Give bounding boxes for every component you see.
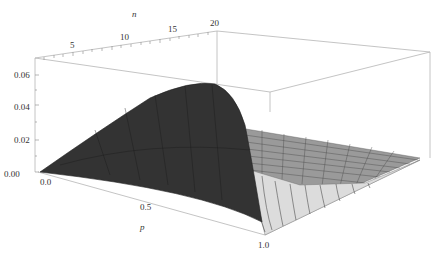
n-axis-label: n [132,9,137,19]
z-axis-ticks [35,75,39,172]
p-tick-1.0: 1.0 [258,240,270,250]
surface-plot: 5 10 15 20 n 0.06 0.04 0.02 0.00 [0,0,443,257]
z-axis-labels: 0.06 0.04 0.02 0.00 [4,70,30,179]
z-tick-0.02: 0.02 [14,135,30,145]
p-tick-0.0: 0.0 [40,177,52,187]
n-tick-10: 10 [120,32,130,42]
z-tick-0.06: 0.06 [14,70,30,80]
n-tick-20: 20 [210,18,220,28]
p-tick-0.5: 0.5 [140,202,152,212]
n-axis-labels: 5 10 15 20 n [70,9,220,50]
z-tick-0.00: 0.00 [4,169,20,179]
n-tick-15: 15 [168,24,178,34]
z-tick-0.04: 0.04 [14,102,30,112]
p-axis-label: p [139,222,145,232]
n-tick-5: 5 [70,40,75,50]
